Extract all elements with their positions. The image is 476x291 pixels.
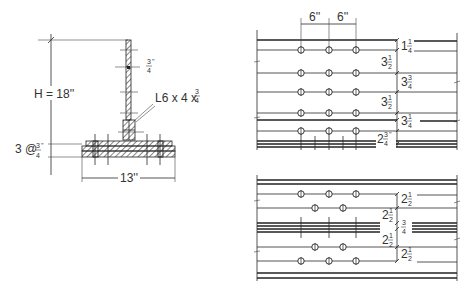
svg-text:'': ''	[152, 58, 155, 65]
svg-text:3: 3	[381, 55, 388, 69]
svg-text:'': ''	[389, 131, 392, 138]
svg-text:4: 4	[402, 228, 406, 235]
bolt-pattern-top	[298, 46, 359, 135]
svg-text:6'': 6''	[337, 10, 348, 24]
svg-text:3: 3	[402, 219, 406, 226]
svg-text:2: 2	[408, 200, 412, 207]
svg-text:2: 2	[382, 208, 389, 222]
flange-thickness-dimension: 3 @ 3 4 ''	[15, 142, 82, 159]
svg-text:1: 1	[388, 94, 392, 101]
svg-text:1: 1	[389, 232, 393, 239]
svg-text:3: 3	[408, 74, 412, 81]
svg-text:2: 2	[388, 63, 392, 70]
svg-text:4: 4	[408, 47, 412, 54]
svg-text:4: 4	[195, 97, 199, 104]
svg-text:4: 4	[408, 122, 412, 129]
svg-text:4: 4	[384, 140, 388, 147]
svg-text:3: 3	[195, 88, 199, 95]
svg-text:3: 3	[401, 75, 408, 89]
svg-text:1: 1	[408, 246, 412, 253]
width-dimension: 13''	[82, 157, 175, 185]
drawing-canvas: H = 18'' 3 4 '' L6 x 4 x 3	[0, 0, 476, 291]
svg-text:3: 3	[36, 142, 40, 149]
vertical-dimension-chain-top: 1 1 4 3 1 2 3 3 4 3 1 2 3 1 4 2	[376, 38, 412, 148]
bolt-pattern-bottom	[298, 190, 359, 265]
svg-text:L6 x 4 x: L6 x 4 x	[155, 91, 197, 105]
svg-text:1: 1	[389, 207, 393, 214]
svg-text:2: 2	[388, 103, 392, 110]
svg-text:4: 4	[408, 83, 412, 90]
web-plate	[126, 40, 131, 120]
svg-text:1: 1	[408, 113, 412, 120]
svg-text:1: 1	[388, 54, 392, 61]
vertical-dimension-chain-bottom: 2 1 2 2 1 2 3 4 2 1 2 2 1 2	[380, 191, 412, 263]
svg-text:2: 2	[389, 241, 393, 248]
bolt-spacing-dimension: 6'' 6''	[301, 10, 356, 50]
height-label: H = 18''	[34, 87, 74, 101]
svg-text:3: 3	[384, 131, 388, 138]
svg-text:4: 4	[36, 152, 40, 159]
svg-text:4: 4	[147, 67, 151, 74]
svg-text:1: 1	[408, 191, 412, 198]
svg-text:3: 3	[381, 95, 388, 109]
angle-label: L6 x 4 x 3 4	[155, 88, 200, 105]
web-splice-plan-bottom: 2 1 2 2 1 2 3 4 2 1 2 2 1 2	[254, 175, 460, 281]
width-label: 13''	[120, 171, 138, 185]
svg-text:2: 2	[377, 132, 384, 146]
svg-text:3: 3	[147, 58, 151, 65]
svg-text:2: 2	[401, 192, 408, 206]
svg-text:3: 3	[401, 114, 408, 128]
svg-text:2: 2	[389, 216, 393, 223]
svg-text:2: 2	[408, 255, 412, 262]
svg-text:6'': 6''	[309, 10, 320, 24]
svg-text:1: 1	[408, 38, 412, 45]
girder-section-view: H = 18'' 3 4 '' L6 x 4 x 3	[15, 34, 200, 185]
svg-text:2: 2	[382, 233, 389, 247]
web-thickness-label: 3 4 ''	[146, 58, 155, 74]
svg-text:3 @: 3 @	[15, 142, 37, 156]
svg-text:'': ''	[41, 142, 44, 149]
flange-splice-plan-top: 6'' 6''	[254, 10, 460, 150]
svg-text:1: 1	[401, 39, 408, 53]
svg-text:2: 2	[401, 247, 408, 261]
